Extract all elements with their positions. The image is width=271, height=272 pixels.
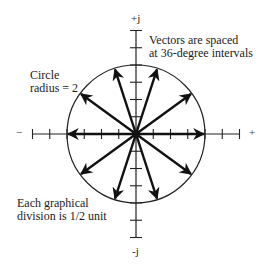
positive-imag-label: +j (131, 12, 140, 25)
circle-radius-line-2: radius = 2 (30, 82, 78, 95)
negative-imag-label: -j (132, 245, 139, 258)
vector-arrow (81, 134, 136, 174)
vector-arrow (136, 134, 157, 199)
origin-point (132, 130, 140, 138)
vector-spacing-note: Vectors are spaced at 36-degree interval… (149, 34, 253, 60)
division-note: Each graphical division is 1/2 unit (17, 197, 107, 223)
vector-arrow (136, 94, 191, 134)
vector-arrow (115, 134, 136, 199)
vector-arrow (115, 69, 136, 134)
positive-real-label: + (249, 126, 255, 138)
circle-radius-note: Circle radius = 2 (30, 69, 78, 95)
division-line-2: division is 1/2 unit (17, 210, 107, 223)
vector-arrow (81, 94, 136, 134)
vector-spacing-line-2: at 36-degree intervals (149, 47, 253, 60)
vector-arrow (136, 134, 191, 174)
negative-real-label: − (16, 126, 22, 138)
vector-arrow (136, 69, 157, 134)
